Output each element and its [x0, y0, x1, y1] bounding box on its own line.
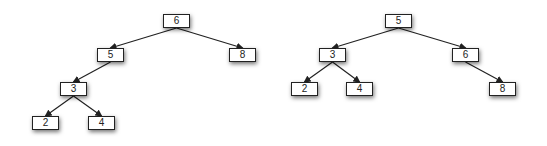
tree-node: 4 [88, 116, 115, 130]
tree-edge [399, 28, 466, 48]
diagram-canvas: 6 5 8 3 2 4 5 3 6 2 4 8 [0, 0, 547, 146]
tree-node: 2 [32, 116, 59, 130]
edges-layer [0, 0, 547, 146]
tree-node: 8 [229, 48, 256, 62]
tree-node: 6 [163, 14, 190, 28]
tree-node: 6 [452, 48, 479, 62]
tree-node: 8 [489, 82, 516, 96]
tree-edge [177, 28, 243, 48]
tree-edge [74, 62, 111, 82]
tree-node: 2 [291, 82, 318, 96]
tree-edge [111, 28, 177, 48]
tree-node: 3 [319, 48, 346, 62]
tree-edge [333, 62, 360, 82]
tree-edge [466, 62, 503, 82]
tree-node: 5 [97, 48, 124, 62]
tree-edge [333, 28, 399, 48]
tree-node: 5 [385, 14, 412, 28]
tree-edge [305, 62, 333, 82]
tree-edge [46, 96, 74, 116]
tree-edge [74, 96, 102, 116]
tree-node: 4 [346, 82, 373, 96]
tree-node: 3 [60, 82, 87, 96]
